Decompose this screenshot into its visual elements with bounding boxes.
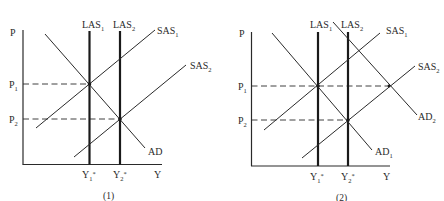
equilibrium-point-1 — [88, 82, 92, 86]
p2-label: P2 — [238, 115, 247, 128]
panel-1-caption: (1) — [103, 191, 114, 201]
las1-label: LAS1 — [310, 19, 332, 32]
sas2-label: SAS2 — [418, 61, 440, 74]
p1-label: P1 — [9, 79, 18, 92]
y1-star-label: Y1* — [82, 169, 96, 182]
las1-label: LAS1 — [82, 19, 104, 32]
equilibrium-point-1 — [316, 84, 320, 88]
p2-label: P2 — [9, 114, 18, 127]
sas1-curve — [264, 33, 380, 130]
sas1-label: SAS1 — [386, 25, 408, 38]
p1-label: P1 — [238, 81, 247, 94]
panel-2: P Y P1 P2 LAS1 LAS2 SAS1 SAS2 AD2 AD1 Y1… — [238, 19, 440, 201]
ad1-curve — [272, 33, 372, 150]
y1-star-label: Y1* — [310, 171, 324, 184]
las2-label: LAS2 — [113, 19, 135, 32]
ad2-label: AD2 — [418, 111, 436, 124]
sas1-label: SAS1 — [157, 25, 179, 38]
price-axis-label: P — [10, 27, 16, 38]
y2-star-label: Y2* — [113, 169, 127, 182]
ad1-label: AD1 — [375, 146, 393, 159]
las2-label: LAS2 — [341, 19, 363, 32]
output-axis-label: Y — [383, 171, 390, 182]
y2-star-label: Y2* — [341, 171, 355, 184]
panel-2-caption: (2) — [336, 193, 347, 201]
equilibrium-point-2 — [118, 117, 122, 121]
panel-1: P Y P1 P2 LAS1 LAS2 SAS1 SAS2 AD Y1* Y2*… — [9, 19, 212, 201]
sas2-curve — [74, 65, 186, 157]
equilibrium-point-2 — [346, 118, 350, 122]
ad-as-diagram: P Y P1 P2 LAS1 LAS2 SAS1 SAS2 AD Y1* Y2*… — [0, 0, 444, 201]
ad-label: AD — [148, 146, 162, 157]
price-axis-label: P — [239, 28, 245, 39]
equilibrium-point-ad2-sas2 — [388, 85, 391, 88]
sas2-label: SAS2 — [190, 60, 212, 73]
output-axis-label: Y — [154, 169, 161, 180]
